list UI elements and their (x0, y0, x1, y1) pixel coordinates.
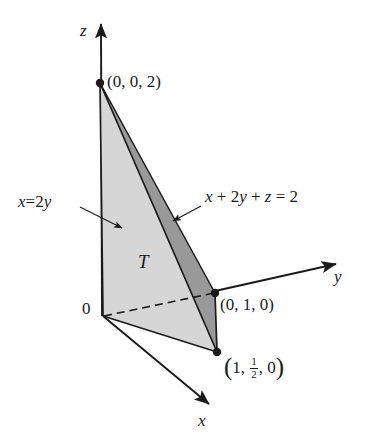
x-variable: x (18, 192, 26, 211)
arrow-plane-equation (173, 206, 201, 221)
paren-close: ) (276, 353, 284, 380)
y-variable: y (44, 192, 52, 211)
vertex-label-1-half-0: (1, 12, 0) (224, 352, 284, 381)
axis-label-x: x (198, 412, 206, 429)
term-x: x (205, 187, 213, 206)
dot-vertex-z (96, 79, 104, 87)
plus-sign-2: + (251, 187, 261, 206)
origin-label: 0 (82, 300, 91, 317)
annotation-plane-equation: x + 2y + z = 2 (205, 188, 298, 205)
axis-label-z: z (80, 22, 87, 39)
dot-vertex-x (213, 348, 221, 356)
fraction-denominator: 2 (250, 368, 258, 381)
annotation-x-equals-2y: x=2y (18, 193, 51, 210)
plus-sign-1: + (217, 187, 227, 206)
coefficient-2y: 2 (231, 187, 240, 206)
equals-sign-plane: = (276, 187, 286, 206)
equals-sign: = (26, 192, 36, 211)
axis-label-y: y (334, 268, 342, 285)
fraction-one-half: 12 (250, 356, 258, 380)
term-z: z (265, 187, 272, 206)
vertex-label-0-0-2: (0, 0, 2) (107, 73, 161, 90)
diagram-canvas (0, 0, 378, 447)
figure-root: z y x 0 (0, 0, 2) (0, 1, 0) (1, 12, 0) x… (0, 0, 378, 447)
dot-vertex-y (211, 289, 219, 297)
coord-x-value: 1 (232, 358, 241, 377)
paren-open: ( (224, 353, 232, 380)
vertex-label-0-1-0: (0, 1, 0) (220, 296, 274, 313)
term-y: y (239, 187, 247, 206)
coord-z-value: 0 (267, 358, 276, 377)
coefficient-2: 2 (35, 192, 44, 211)
region-label-T: T (138, 252, 149, 271)
fraction-numerator: 1 (250, 356, 258, 368)
rhs-value: 2 (290, 187, 299, 206)
